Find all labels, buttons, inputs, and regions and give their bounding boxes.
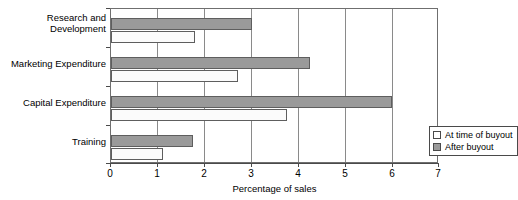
- x-axis-line: [110, 163, 439, 164]
- y-axis-tick: [106, 86, 110, 87]
- bar-group-marketing-expenditure: [111, 57, 437, 84]
- bar-after-buyout-research-and-development: [111, 18, 252, 30]
- legend-swatch-icon: [433, 143, 441, 151]
- x-axis-tick: [251, 163, 252, 167]
- bar-at-time-of-buyout-capital-expenditure: [111, 109, 287, 121]
- bar-group-research-and-development: [111, 18, 437, 45]
- x-axis-tick-label: 5: [335, 168, 355, 179]
- legend-swatch-icon: [433, 131, 441, 139]
- category-label-capital-expenditure: Capital Expenditure: [0, 97, 106, 108]
- x-axis-tick: [392, 163, 393, 167]
- category-label-research-and-development: Research and Development: [0, 12, 106, 34]
- x-axis-tick: [345, 163, 346, 167]
- bar-at-time-of-buyout-training: [111, 148, 163, 160]
- plot-area: At time of buyout After buyout: [110, 8, 438, 163]
- legend-item-at-time-of-buyout: At time of buyout: [433, 129, 513, 141]
- x-axis-tick: [110, 163, 111, 167]
- category-label-line: Marketing Expenditure: [0, 58, 106, 69]
- category-label-line: Research and: [0, 12, 106, 23]
- x-axis-tick-label: 0: [100, 168, 120, 179]
- category-axis-labels: Research and Development Marketing Expen…: [0, 8, 106, 163]
- legend-label: At time of buyout: [445, 130, 513, 140]
- x-axis-tick: [204, 163, 205, 167]
- x-axis-tick-label: 1: [147, 168, 167, 179]
- x-axis-tick: [438, 163, 439, 167]
- bar-at-time-of-buyout-marketing-expenditure: [111, 70, 238, 82]
- x-axis-tick-label: 4: [288, 168, 308, 179]
- legend-item-after-buyout: After buyout: [433, 141, 513, 153]
- category-label-line: Training: [0, 136, 106, 147]
- x-axis-tick-label: 6: [382, 168, 402, 179]
- y-axis-tick: [106, 125, 110, 126]
- x-axis-tick: [157, 163, 158, 167]
- x-axis-tick-label: 2: [194, 168, 214, 179]
- category-label-line: Development: [0, 23, 106, 34]
- category-label-line: Capital Expenditure: [0, 97, 106, 108]
- bar-group-training: [111, 135, 437, 162]
- x-axis-title: Percentage of sales: [110, 183, 439, 194]
- legend-label: After buyout: [445, 142, 494, 152]
- bar-after-buyout-capital-expenditure: [111, 96, 392, 108]
- category-label-marketing-expenditure: Marketing Expenditure: [0, 58, 106, 69]
- x-axis-tick-label: 7: [428, 168, 448, 179]
- bar-after-buyout-training: [111, 135, 193, 147]
- x-axis-tick-label: 3: [241, 168, 261, 179]
- x-axis-tick: [298, 163, 299, 167]
- y-axis-tick: [106, 47, 110, 48]
- category-label-training: Training: [0, 136, 106, 147]
- bar-after-buyout-marketing-expenditure: [111, 57, 310, 69]
- legend: At time of buyout After buyout: [429, 126, 518, 156]
- y-axis-tick: [106, 8, 110, 9]
- bar-group-capital-expenditure: [111, 96, 437, 123]
- bar-at-time-of-buyout-research-and-development: [111, 31, 195, 43]
